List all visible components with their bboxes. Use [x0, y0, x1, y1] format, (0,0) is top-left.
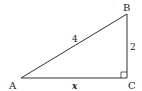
side-label-ab: 4: [72, 34, 78, 44]
vertex-label-c: C: [128, 80, 136, 91]
vertex-label-a: A: [8, 80, 17, 91]
side-label-ac: x: [71, 81, 78, 91]
side-label-bc: 2: [130, 42, 136, 52]
triangle-diagram: A B C 4 2 x: [0, 0, 142, 91]
triangle-abc: [21, 14, 127, 78]
right-angle-marker: [121, 72, 127, 78]
vertex-label-b: B: [123, 2, 130, 13]
